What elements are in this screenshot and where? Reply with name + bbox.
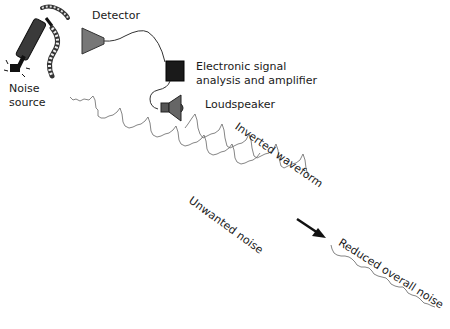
detector-label: Detector bbox=[92, 9, 140, 22]
electronics-label-line1: Electronic signal bbox=[196, 60, 286, 73]
loudspeaker-icon bbox=[161, 95, 183, 121]
jackhammer-icon bbox=[4, 6, 68, 77]
signal-wire-1 bbox=[104, 31, 165, 62]
noise-source-label-line2: source bbox=[9, 96, 46, 109]
detector-icon bbox=[82, 28, 104, 54]
noise-source-label-line1: Noise bbox=[9, 82, 40, 95]
diagram-canvas bbox=[0, 0, 450, 329]
result-arrow-icon bbox=[297, 219, 326, 238]
electronics-box-icon bbox=[166, 61, 184, 81]
loudspeaker-label: Loudspeaker bbox=[205, 98, 275, 111]
electronics-label-line2: analysis and amplifier bbox=[196, 74, 317, 87]
